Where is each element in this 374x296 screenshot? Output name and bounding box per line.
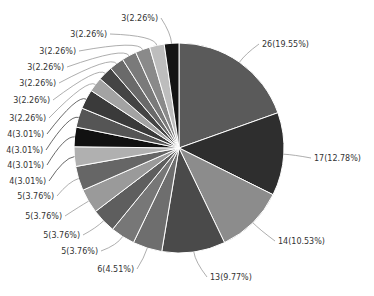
slice-label: 6(4.51%) <box>97 265 134 274</box>
slice-label: 13(9.77%) <box>210 273 252 282</box>
slice-label: 14(10.53%) <box>278 237 325 246</box>
slice-label: 17(12.78%) <box>314 154 361 163</box>
pie-chart-svg: 26(19.55%)17(12.78%)14(10.53%)13(9.77%)6… <box>0 0 374 296</box>
slice-label: 5(3.76%) <box>61 247 98 256</box>
slice-label: 4(3.01%) <box>7 161 44 170</box>
slice-label: 3(2.26%) <box>70 30 107 39</box>
leader-line <box>83 221 103 235</box>
leader-line <box>65 201 88 216</box>
leader-line <box>137 248 147 269</box>
leader-line <box>101 237 123 251</box>
slice-label: 3(2.26%) <box>9 114 46 123</box>
slice-label: 5(3.76%) <box>17 192 54 201</box>
pie-slices <box>74 43 284 253</box>
slice-label: 3(2.26%) <box>19 79 56 88</box>
slice-label: 4(3.01%) <box>7 130 44 139</box>
leader-line <box>47 137 75 165</box>
leader-line <box>110 34 157 45</box>
leader-line <box>161 18 172 43</box>
leader-line <box>284 154 311 158</box>
slice-label: 4(3.01%) <box>9 177 46 186</box>
slice-label: 5(3.76%) <box>43 231 80 240</box>
slice-label: 4(3.01%) <box>6 146 43 155</box>
slice-label: 26(19.55%) <box>262 40 309 49</box>
slice-label: 3(2.26%) <box>121 14 158 23</box>
slice-label: 5(3.76%) <box>25 212 62 221</box>
leader-line <box>253 223 275 241</box>
leader-line <box>79 45 143 51</box>
leader-line <box>49 157 74 181</box>
leader-line <box>194 252 207 277</box>
slice-label: 3(2.26%) <box>39 47 76 56</box>
slice-label: 3(2.26%) <box>27 63 64 72</box>
leader-line <box>240 44 259 62</box>
slice-label: 3(2.26%) <box>13 96 50 105</box>
pie-chart: 26(19.55%)17(12.78%)14(10.53%)13(9.77%)6… <box>0 0 374 296</box>
leader-line <box>57 179 79 196</box>
